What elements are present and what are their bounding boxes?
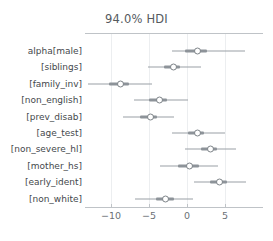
row-label-mother_hs: [mother_hs] [0, 161, 82, 171]
row-label-family_inv: [family_inv] [0, 79, 82, 89]
x-tick--10 [111, 204, 112, 208]
point-estimate-marker [147, 113, 154, 120]
point-estimate-marker [186, 162, 193, 169]
row-label-prev_disab: [prev_disab] [0, 112, 82, 122]
x-tick--5 [149, 204, 150, 208]
gridline--10 [111, 34, 112, 207]
point-estimate-marker [194, 48, 201, 55]
row-label-non_severe_hl: [non_severe_hl] [0, 144, 82, 154]
x-tick-label--5: −5 [129, 210, 169, 221]
gridline--5 [149, 34, 150, 207]
row-label-non_white: [non_white] [0, 194, 82, 204]
forest-plot: 94.0% HDI −10−505 alpha[male][siblings][… [0, 0, 273, 241]
row-label-siblings: [siblings] [0, 62, 82, 72]
point-estimate-marker [207, 146, 214, 153]
gridline-0 [187, 34, 188, 207]
x-tick-5 [225, 204, 226, 208]
point-estimate-marker [194, 130, 201, 137]
x-tick-label-0: 0 [167, 210, 207, 221]
row-label-age_test: [age_test] [0, 128, 82, 138]
point-estimate-marker [156, 97, 163, 104]
hdi94-line [172, 51, 245, 52]
point-estimate-marker [162, 195, 169, 202]
x-tick-label--10: −10 [91, 210, 131, 221]
row-label-non_english: [non_english] [0, 95, 82, 105]
row-label-alphamale: alpha[male] [0, 46, 82, 56]
x-tick-label-5: 5 [205, 210, 245, 221]
point-estimate-marker [216, 179, 223, 186]
point-estimate-marker [117, 80, 124, 87]
point-estimate-marker [170, 64, 177, 71]
row-label-early_ident: [early_ident] [0, 177, 82, 187]
x-tick-0 [187, 204, 188, 208]
chart-title: 94.0% HDI [0, 12, 273, 26]
